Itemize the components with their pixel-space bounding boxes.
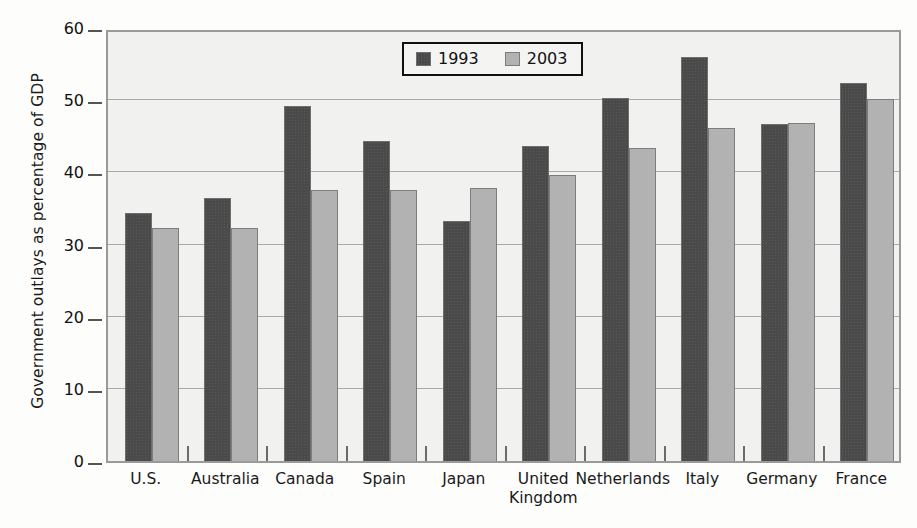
legend-label-1993: 1993 — [438, 49, 479, 68]
chart-legend: 1993 2003 — [402, 42, 583, 76]
bar-2003 — [708, 128, 735, 461]
bar-1993 — [284, 106, 311, 461]
bar-1993 — [681, 57, 708, 461]
x-axis-labels: U.S.AustraliaCanadaSpainJapanUnited King… — [106, 470, 901, 528]
y-tick-label: 60 — [14, 19, 84, 38]
bar-group — [585, 28, 665, 461]
bar-group — [347, 28, 427, 461]
y-tick-mark — [88, 102, 102, 104]
bar-group — [188, 28, 268, 461]
dark-swatch-icon — [416, 52, 431, 66]
y-tick-label: 50 — [14, 91, 84, 110]
y-tick-mark — [88, 463, 102, 465]
legend-item-2003: 2003 — [505, 49, 568, 68]
bar-group — [824, 28, 904, 461]
bar-2003 — [629, 148, 656, 461]
bar-2003 — [788, 123, 815, 461]
bar-2003 — [390, 190, 417, 461]
bar-2003 — [152, 228, 179, 461]
light-swatch-icon — [505, 52, 520, 66]
plot-area — [106, 30, 901, 463]
bar-group — [665, 28, 745, 461]
bar-chart-figure: Government outlays as percentage of GDP … — [0, 0, 917, 528]
bar-1993 — [363, 141, 390, 461]
legend-item-1993: 1993 — [416, 49, 479, 68]
y-tick-mark — [88, 247, 102, 249]
bar-1993 — [602, 98, 629, 461]
bar-1993 — [125, 213, 152, 461]
y-tick-mark — [88, 391, 102, 393]
bar-group — [426, 28, 506, 461]
y-tick-label: 0 — [14, 452, 84, 471]
bar-1993 — [204, 198, 231, 461]
bar-2003 — [231, 228, 258, 461]
y-tick-label: 40 — [14, 163, 84, 182]
bar-group — [744, 28, 824, 461]
bar-2003 — [549, 175, 576, 462]
y-tick-label: 10 — [14, 380, 84, 399]
y-tick-label: 20 — [14, 308, 84, 327]
bar-1993 — [522, 146, 549, 461]
y-tick-label: 30 — [14, 236, 84, 255]
bar-2003 — [867, 99, 894, 461]
bar-group — [506, 28, 586, 461]
y-tick-mark — [88, 319, 102, 321]
bar-group — [108, 28, 188, 461]
y-tick-mark — [88, 30, 102, 32]
bar-2003 — [470, 188, 497, 462]
bar-1993 — [840, 83, 867, 461]
x-tick-label: France — [810, 470, 914, 489]
bar-group — [267, 28, 347, 461]
bar-1993 — [443, 221, 470, 461]
bar-2003 — [311, 190, 338, 461]
y-tick-mark — [88, 174, 102, 176]
bar-1993 — [761, 124, 788, 461]
legend-label-2003: 2003 — [527, 49, 568, 68]
